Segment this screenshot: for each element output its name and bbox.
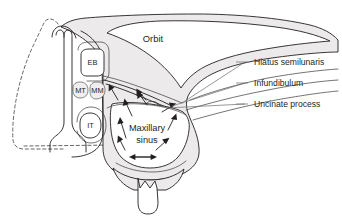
callout-label-hiatus-semilunaris: Hiatus semilunaris xyxy=(254,57,324,67)
anatomical-diagram: Orbit Maxillary sinus EB MT MM IT Hiatus… xyxy=(0,0,342,222)
nasal-septum-left-wall xyxy=(50,30,64,152)
nasal-profile-dashed-outline xyxy=(13,19,63,149)
abbr-label-mm: MM xyxy=(91,86,103,95)
region-label-maxillary-sinus-line2: sinus xyxy=(136,135,158,145)
region-label-orbit: Orbit xyxy=(143,33,164,44)
abbr-label-mt: MT xyxy=(75,86,86,95)
region-label-maxillary-sinus-line1: Maxillary xyxy=(129,123,166,133)
diagram-canvas: Orbit Maxillary sinus EB MT MM IT Hiatus… xyxy=(0,0,342,222)
callout-label-uncinate-process: Uncinate process xyxy=(254,99,320,109)
nasal-septum-right-wall xyxy=(64,30,72,37)
abbr-label-it: IT xyxy=(87,121,94,130)
abbr-label-eb: EB xyxy=(88,58,98,67)
callout-label-infundibulum: Infundibulum xyxy=(254,78,303,88)
